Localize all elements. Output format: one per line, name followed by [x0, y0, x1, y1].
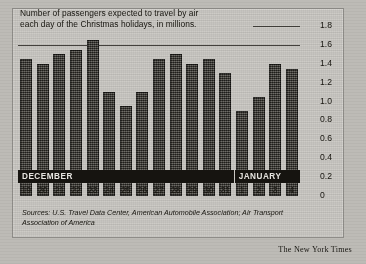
x-tick-label: 28	[168, 185, 184, 195]
x-tick-label: 25	[118, 185, 134, 195]
source-note-line-2: Association of America	[22, 218, 322, 228]
x-tick-label: 29	[184, 185, 200, 195]
gridline-1-8	[253, 26, 300, 27]
bar	[236, 111, 248, 196]
source-note: Sources: U.S. Travel Data Center, Americ…	[22, 208, 322, 227]
x-tick-label: 4	[284, 185, 300, 195]
x-tick-label: 27	[151, 185, 167, 195]
y-tick-label: 0.8	[320, 114, 332, 124]
x-tick-label: 31	[217, 185, 233, 195]
x-tick-label: 20	[35, 185, 51, 195]
month-band: DECEMBERJANUARY	[18, 170, 300, 183]
x-tick-label: 26	[134, 185, 150, 195]
chart-title-line-1: Number of passengers expected to travel …	[20, 8, 272, 19]
x-tick-label: 22	[68, 185, 84, 195]
x-tick-label: 24	[101, 185, 117, 195]
x-tick-label: 21	[51, 185, 67, 195]
x-tick-label: 2	[251, 185, 267, 195]
figure: Number of passengers expected to travel …	[0, 0, 366, 264]
y-tick-label: 1.0	[320, 96, 332, 106]
gridline-1-6	[18, 45, 300, 46]
x-tick-label: 23	[85, 185, 101, 195]
x-tick-label: 1	[234, 185, 250, 195]
y-tick-label: 1.2	[320, 77, 332, 87]
x-axis-labels: 192021222324252627282930311234	[18, 185, 300, 197]
y-tick-label: 1.6	[320, 39, 332, 49]
y-tick-label: 1.8	[320, 20, 332, 30]
x-tick-label: 19	[18, 185, 34, 195]
y-tick-label: 0.6	[320, 133, 332, 143]
y-tick-label: 0	[320, 190, 325, 200]
month-label-december: DECEMBER	[22, 170, 73, 183]
y-tick-label: 1.4	[320, 58, 332, 68]
month-separator	[234, 170, 235, 183]
y-tick-label: 0.2	[320, 171, 332, 181]
x-tick-label: 3	[267, 185, 283, 195]
month-label-january: JANUARY	[239, 170, 282, 183]
y-tick-label: 0.4	[320, 152, 332, 162]
source-note-line-1: Sources: U.S. Travel Data Center, Americ…	[22, 208, 322, 218]
publication-credit: The New York Times	[278, 245, 352, 254]
x-tick-label: 30	[201, 185, 217, 195]
